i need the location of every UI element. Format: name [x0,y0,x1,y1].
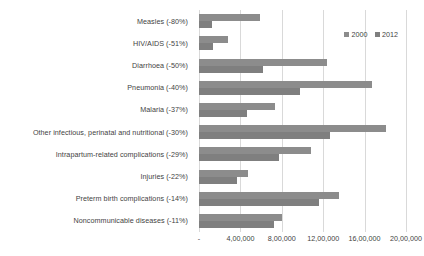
value-tick-label: 20,00,000 [390,234,422,243]
bar-2000 [199,214,282,221]
category-axis: Measles (-80%)HIV/AIDS (-51%)Diarrhoea (… [0,10,194,232]
category-label: Diarrhoea (-50%) [0,54,194,76]
bar-group [199,210,406,232]
category-label: Noncommunicable diseases (-11%) [0,210,194,232]
bar-group [199,54,406,76]
bar-2000 [199,103,275,110]
category-label: Preterm birth complications (-14%) [0,188,194,210]
bar-groups [199,10,406,232]
legend-swatch-icon [344,32,349,37]
value-tick-label: 16,00,000 [349,234,381,243]
bar-2012 [199,66,263,73]
bar-2012 [199,177,237,184]
value-axis: -4,00,0008,00,00012,00,00016,00,00020,00… [199,234,406,250]
bar-2000 [199,125,386,132]
bar-2000 [199,81,372,88]
value-tick-label: 8,00,000 [268,234,296,243]
bar-2012 [199,110,247,117]
legend-swatch-icon [375,32,380,37]
bar-group [199,77,406,99]
legend-label: 2000 [352,30,368,39]
bar-2012 [199,154,279,161]
bar-group [199,165,406,187]
value-tick-label: - [198,234,200,243]
bar-2012 [199,221,274,228]
bar-2012 [199,88,300,95]
bar-group [199,143,406,165]
category-label: Injuries (-22%) [0,165,194,187]
category-label: HIV/AIDS (-51%) [0,32,194,54]
gridline [406,10,407,232]
chart-legend: 20002012 [344,30,398,39]
bar-2000 [199,192,339,199]
bar-2000 [199,36,228,43]
bar-group [199,99,406,121]
bar-2000 [199,59,327,66]
value-tick-label: 4,00,000 [226,234,254,243]
bar-2012 [199,21,212,28]
bar-2012 [199,43,213,50]
bar-2000 [199,170,248,177]
bar-2000 [199,147,311,154]
bar-chart: Measles (-80%)HIV/AIDS (-51%)Diarrhoea (… [0,0,424,256]
category-label: Other infectious, perinatal and nutritio… [0,121,194,143]
category-label: Intrapartum-related complications (-29%) [0,143,194,165]
bar-group [199,121,406,143]
value-tick-label: 12,00,000 [307,234,339,243]
legend-entry[interactable]: 2012 [375,30,399,39]
plot-area [199,10,406,232]
legend-entry[interactable]: 2000 [344,30,368,39]
bar-group [199,188,406,210]
category-label: Pneumonia (-40%) [0,77,194,99]
bar-2000 [199,14,260,21]
bar-group [199,10,406,32]
legend-label: 2012 [382,30,398,39]
category-label: Measles (-80%) [0,10,194,32]
bar-2012 [199,199,319,206]
category-label: Malaria (-37%) [0,99,194,121]
bar-2012 [199,132,330,139]
